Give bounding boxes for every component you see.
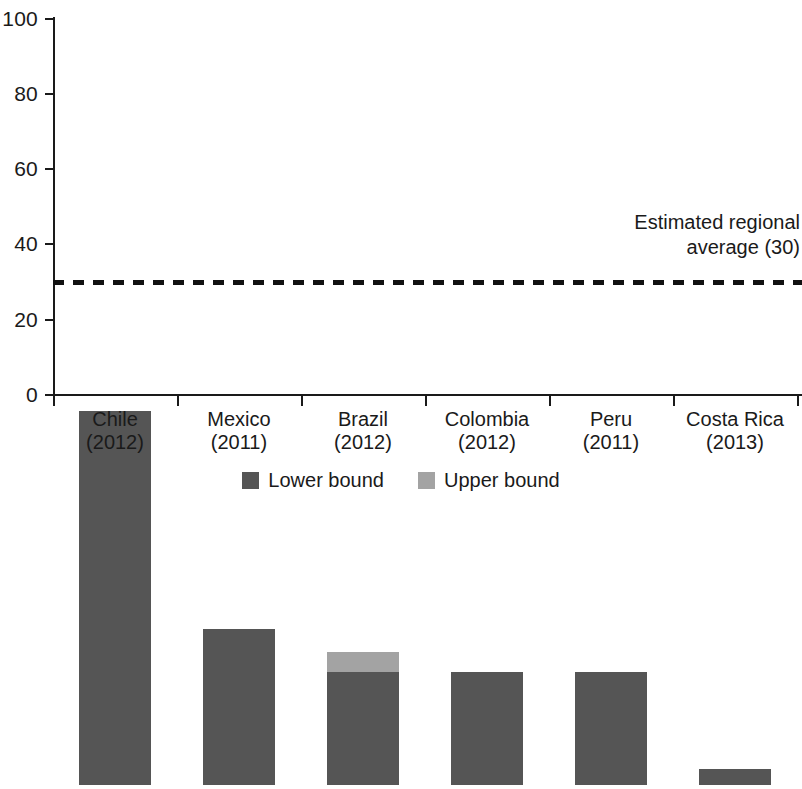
legend-swatch-lower-bound <box>242 472 259 489</box>
y-tick-label-40: 40 <box>0 233 38 254</box>
plot-area <box>53 10 802 400</box>
legend-label-upper-bound: Upper bound <box>444 470 560 490</box>
category-year: (2013) <box>655 431 802 454</box>
bar-lower-bound <box>79 411 151 785</box>
category-name: Costa Rica <box>655 408 802 431</box>
bar-lower-bound <box>451 672 523 785</box>
x-axis-category-label: Costa Rica(2013) <box>655 408 802 454</box>
bar-upper-bound <box>327 652 399 673</box>
y-tick-label-0: 0 <box>0 384 38 405</box>
bar-lower-bound <box>327 672 399 785</box>
y-tick-label-80: 80 <box>0 83 38 104</box>
annotation-line-2: average (30) <box>470 235 800 260</box>
bar-group <box>451 400 523 789</box>
bar-group <box>203 400 275 789</box>
annotation-line-1: Estimated regional <box>470 210 800 235</box>
bar-lower-bound <box>575 672 647 785</box>
y-tick-label-60: 60 <box>0 158 38 179</box>
legend-swatch-upper-bound <box>418 472 435 489</box>
y-tick-label-20: 20 <box>0 309 38 330</box>
legend-item-lower-bound: Lower bound <box>242 470 384 490</box>
regional-average-reference-line <box>53 280 802 285</box>
legend-label-lower-bound: Lower bound <box>268 470 384 490</box>
chart-legend: Lower bound Upper bound <box>0 470 802 490</box>
y-tick-label-100: 100 <box>0 8 38 29</box>
bar-group <box>327 400 399 789</box>
regional-average-annotation: Estimated regional average (30) <box>470 210 800 260</box>
legend-item-upper-bound: Upper bound <box>418 470 560 490</box>
bar-group <box>79 400 151 789</box>
bar-group <box>575 400 647 789</box>
bar-lower-bound <box>203 629 275 785</box>
bar-group <box>699 400 771 789</box>
bar-lower-bound <box>699 769 771 785</box>
